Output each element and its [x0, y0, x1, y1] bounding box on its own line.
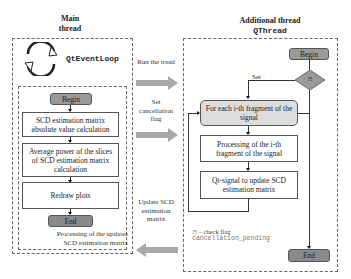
cancel-arrow-icon: [136, 128, 178, 142]
main-step-average-power: Average power of the slices of SCD estim…: [22, 143, 119, 177]
connector: [188, 211, 249, 212]
qt-signal-node: Qt-signal to update SCD estimation matri…: [200, 171, 298, 199]
run-thread-label: Run the tread: [135, 58, 177, 67]
diagram: Main thread QtEventLoop Begin SCD estima…: [0, 0, 351, 279]
connector: [309, 60, 310, 70]
main-note: Processing of the updates SCD estimation…: [38, 230, 128, 247]
additional-begin-node: Begin: [289, 48, 329, 60]
connector: [248, 199, 249, 211]
connector: [188, 113, 189, 212]
additional-thread-title-line1: Additional thread: [215, 16, 325, 26]
event-loop-icon: [20, 42, 62, 76]
cancel-flag-label: Set cancellation flag: [135, 98, 177, 124]
arrow-right-icon: [197, 111, 200, 115]
main-end-node: End: [48, 215, 93, 227]
connector: [248, 80, 295, 81]
legend: ?! – check flag cancellation_pending: [192, 228, 270, 242]
run-arrow-icon: [136, 76, 178, 90]
main-step-abs-value: SCD estimation matrix absolute value cal…: [22, 112, 119, 137]
decision-label: ?!: [295, 75, 325, 83]
main-step-redraw: Redraw plots: [22, 182, 119, 209]
main-note-line1: Processing of the updates: [38, 230, 128, 239]
connector: [248, 80, 249, 97]
additional-thread-title-line2: QThread: [215, 26, 325, 36]
update-arrow-icon: [136, 243, 178, 257]
event-loop-label: QtEventLoop: [66, 54, 119, 63]
main-begin-node: Begin: [50, 93, 92, 105]
arrow-down-icon: [246, 96, 250, 99]
additional-end-node: End: [288, 249, 330, 262]
main-thread-title: Main thread: [35, 14, 105, 34]
main-thread-title-line2: thread: [35, 24, 105, 34]
loop-fragment-node: For each i-th fragment of the signal: [200, 100, 298, 126]
connector: [298, 113, 309, 114]
legend-line1: ?! – check flag: [192, 228, 270, 235]
additional-thread-title: Additional thread QThread: [215, 16, 325, 36]
process-fragment-node: Processing of the i-th fragment of the s…: [200, 135, 298, 162]
main-note-line2: SCD estimation matrix: [38, 239, 128, 248]
connector: [309, 90, 310, 248]
legend-line2: cancellation_pending: [192, 235, 270, 242]
update-matrix-label: Update SCD estimation matrix: [135, 198, 177, 224]
main-thread-title-line1: Main: [35, 14, 105, 24]
